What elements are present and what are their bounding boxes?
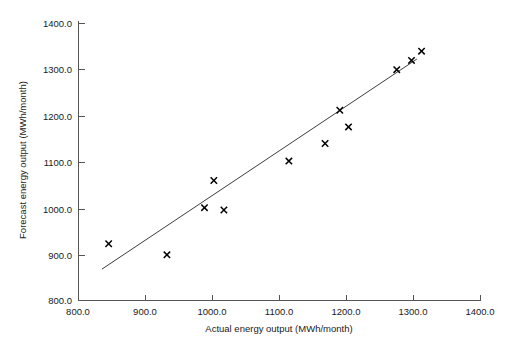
y-axis-ticks (79, 24, 85, 301)
data-point-marker (201, 205, 207, 211)
figure-container: 1400.0 1300.0 1200.0 1100.0 1000.0 900.0… (0, 0, 517, 351)
data-point-marker (322, 140, 328, 146)
x-tick-label-1400: 1400.0 (465, 306, 494, 317)
trend-line (102, 59, 417, 269)
x-axis-tick-labels: 800.0 900.0 1000.0 1100.0 1200.0 1300.0 … (66, 306, 494, 317)
x-tick-label-1000: 1000.0 (197, 306, 226, 317)
data-point-marker (286, 158, 292, 164)
y-tick-label-1300: 1300.0 (43, 64, 72, 75)
data-point-marker (105, 241, 111, 247)
x-tick-label-1300: 1300.0 (398, 306, 427, 317)
data-point-marker (418, 48, 424, 54)
y-tick-label-1200: 1200.0 (43, 111, 72, 122)
data-point-layer (105, 48, 424, 258)
y-tick-label-1100: 1100.0 (44, 157, 72, 168)
y-tick-label-800: 800.0 (48, 295, 72, 306)
x-axis-ticks (79, 295, 481, 301)
y-axis-title: Forecast energy output (MWh/month) (17, 81, 28, 239)
data-point-marker (337, 107, 343, 113)
x-tick-label-900: 900.0 (133, 306, 157, 317)
data-point-marker (211, 177, 217, 183)
y-axis-tick-labels: 1400.0 1300.0 1200.0 1100.0 1000.0 900.0… (43, 18, 72, 306)
x-tick-label-800: 800.0 (66, 306, 90, 317)
trend-line-layer (102, 59, 417, 269)
x-axis-title: Actual energy output (MWh/month) (205, 323, 352, 334)
page-caption-strip (28, 341, 490, 347)
data-point-marker (345, 124, 351, 130)
data-point-marker (221, 207, 227, 213)
x-tick-label-1200: 1200.0 (331, 306, 360, 317)
data-point-marker (164, 252, 170, 258)
y-tick-label-1400: 1400.0 (43, 18, 72, 29)
y-tick-label-900: 900.0 (48, 250, 72, 261)
y-tick-label-1000: 1000.0 (43, 204, 72, 215)
x-tick-label-1100: 1100.0 (265, 306, 293, 317)
scatter-chart: 1400.0 1300.0 1200.0 1100.0 1000.0 900.0… (0, 0, 517, 351)
